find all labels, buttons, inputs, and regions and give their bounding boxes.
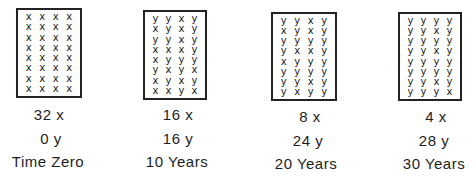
individual-x: x [53,22,59,32]
count-x-label: 16 x [118,106,238,123]
population-grid: yyxyxyxyyyyyyxxyxyyyyyyyyyxyyxyy [277,16,331,97]
population-box: yyxyxyxyyyyyyxxyxyyyyyyyyyxyyxyy [271,12,337,101]
count-x-label: 8 x [250,108,370,125]
individual-y: y [166,24,172,34]
individual-y: y [321,46,327,56]
individual-y: y [421,46,427,56]
individual-x: x [192,86,198,96]
individual-x: x [434,46,440,56]
individual-x: x [39,22,45,32]
individual-x: x [294,46,300,56]
individual-x: x [26,63,32,73]
individual-y: y [421,87,427,97]
individual-x: x [308,46,314,56]
individual-y: y [308,87,314,97]
individual-x: x [66,22,72,32]
count-y-label: 0 y [0,130,111,147]
individual-x: x [53,63,59,73]
individual-x: x [166,65,172,75]
individual-x: x [294,87,300,97]
count-y-label: 28 y [374,132,474,149]
individual-x: x [53,84,59,94]
individual-y: y [281,87,287,97]
individual-y: y [179,65,185,75]
individual-x: x [153,86,159,96]
individual-x: x [26,22,32,32]
population-grid: yyxyxyxyyyxyxxxyxyyyyxyxxyxyxxyx [149,14,201,96]
individual-y: y [447,46,453,56]
individual-y: y [153,65,159,75]
individual-x: x [179,24,185,34]
time-label: 30 Years [374,155,474,172]
population-grid: yyyyyyxyyyyyyyxyyyyyyyyyyyxyyyyx [404,16,456,97]
individual-x: x [66,63,72,73]
individual-x: x [39,63,45,73]
individual-y: y [321,87,327,97]
count-x-label: 4 x [376,108,474,125]
individual-x: x [447,87,453,97]
individual-y: y [434,87,440,97]
individual-x: x [39,84,45,94]
individual-x: x [26,84,32,94]
individual-x: x [153,24,159,34]
individual-x: x [166,86,172,96]
population-grid: xxxxxxxxxxxxxxxxxxxxxxxxxxxxxxxx [22,12,76,94]
population-box: yyyyyyxyyyyyyyxyyyyyyyyyyyxyyyyx [398,12,462,101]
individual-y: y [192,24,198,34]
individual-y: y [408,87,414,97]
time-label: 10 Years [117,153,237,170]
individual-y: y [281,46,287,56]
time-label: 20 Years [246,155,366,172]
count-y-label: 24 y [248,132,368,149]
population-box: yyxyxyxyyyxyxxxyxyyyyxyxxyxyxxyx [143,10,207,100]
individual-y: y [408,46,414,56]
population-box: xxxxxxxxxxxxxxxxxxxxxxxxxxxxxxxx [16,8,82,98]
individual-x: x [66,84,72,94]
individual-y: y [179,86,185,96]
individual-x: x [192,65,198,75]
count-x-label: 32 x [0,106,109,123]
count-y-label: 16 y [118,130,238,147]
time-label: Time Zero [0,153,108,170]
